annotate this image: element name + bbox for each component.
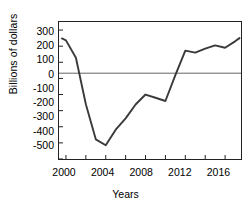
data-series-line (62, 38, 240, 145)
x-tick-marks (66, 155, 225, 159)
y-tick-marks (59, 30, 63, 159)
line-chart: Billions of dollars 300 200 100 0 -100 -… (0, 0, 251, 209)
plot-frame (59, 22, 242, 160)
plot-area (0, 0, 251, 209)
